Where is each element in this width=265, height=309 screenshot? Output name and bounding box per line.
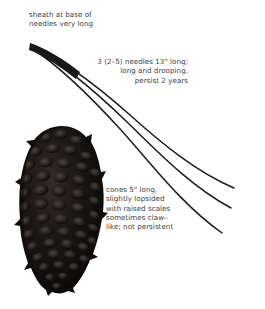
botanical-illustration (0, 0, 265, 309)
illustration-plate: sheath at base of needles very long 3 (2… (0, 0, 265, 309)
annotation-needles: 3 (2–5) needles 13" long; long and droop… (60, 57, 188, 85)
pine-cone (14, 126, 108, 296)
annotation-sheath: sheath at base of needles very long (29, 10, 149, 29)
annotation-cones: cones 5" long, slightly lopsided with ra… (106, 185, 216, 231)
